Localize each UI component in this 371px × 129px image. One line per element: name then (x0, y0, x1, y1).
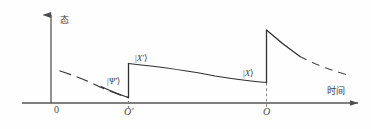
y-axis-label: 态 (60, 13, 69, 26)
origin-label: 0 (54, 104, 59, 115)
curve-post-o-dashed (300, 57, 350, 76)
ket-bracket: ⟩ (144, 53, 147, 63)
curve-pre-measurement-solid-tail (101, 87, 129, 98)
ket-bracket: ⟩ (250, 68, 253, 78)
ket-label-chi: |X⟩ (243, 68, 254, 78)
state-time-figure: 态 时间 0 O' O |Ψ'⟩ |X'⟩ |X⟩ (0, 0, 371, 129)
ket-bracket: ⟩ (117, 76, 120, 86)
ket-label-psi-prime: |Ψ'⟩ (107, 76, 120, 86)
curve-post-o-solid (267, 30, 301, 57)
tick-label-o: O (263, 106, 270, 117)
x-axis-label: 时间 (327, 84, 345, 97)
ket-label-chi-prime: |X'⟩ (135, 53, 147, 63)
tick-label-o-prime: O' (124, 106, 133, 117)
